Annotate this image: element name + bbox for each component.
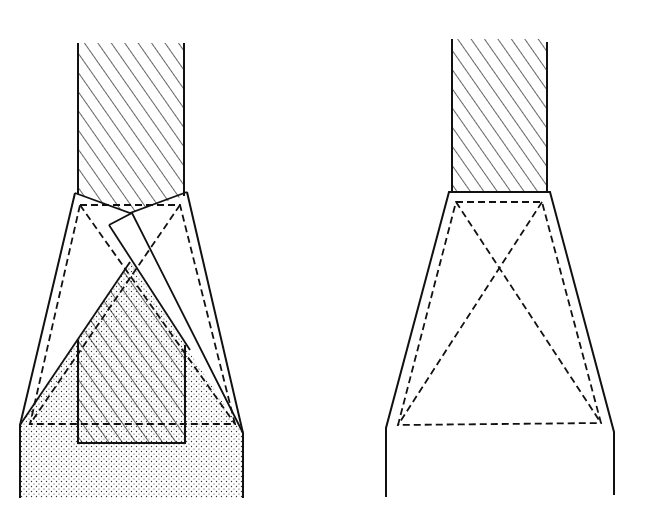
left-upper-bar: [78, 43, 184, 213]
right-upper-bar: [452, 39, 547, 192]
diagram-svg: [0, 0, 647, 522]
diagram-canvas: [0, 0, 647, 522]
right-panel: [386, 39, 614, 497]
left-lower-bar: [78, 262, 185, 443]
right-dashed-truss: [398, 202, 601, 425]
left-panel: [20, 43, 243, 498]
